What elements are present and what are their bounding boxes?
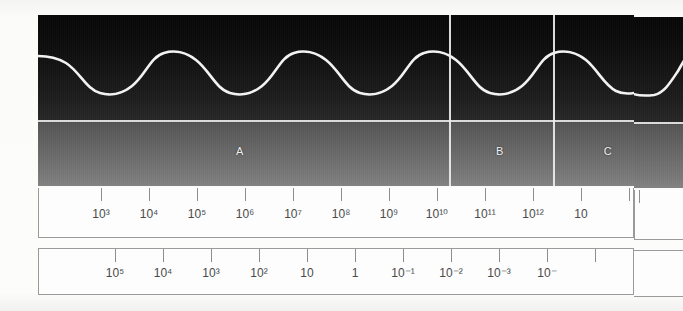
axis-tick-label: 10 [574, 207, 587, 221]
axis-tick [355, 249, 356, 262]
axis-tick-label: 1 [352, 266, 359, 280]
axis-tick [595, 249, 596, 262]
band-label-b: B [496, 145, 504, 157]
axis-tick-label: 10³ [92, 207, 109, 221]
axis-tick-label: 10³ [202, 266, 219, 280]
frequency-scale-axis-right-segment [634, 190, 683, 240]
axis-tick [307, 249, 308, 262]
axis-tick [115, 249, 116, 262]
axis-tick [293, 188, 294, 201]
axis-tick-label: 10⁻ [537, 266, 556, 280]
axis-tick [629, 188, 630, 201]
band-label-c: C [604, 145, 612, 157]
wavelength-scale-axis: 10⁵ 10⁴ 10³ 10² 10 1 10⁻¹ 10⁻² 10⁻³ 10⁻ [38, 248, 634, 295]
spectrum-panel: A B C [38, 15, 634, 186]
axis-tick [581, 188, 582, 201]
axis-tick-label: 10¹⁰ [426, 207, 448, 221]
band-divider-b-c [553, 15, 555, 186]
axis-tick-label: 10⁷ [284, 207, 302, 221]
axis-tick-label: 10⁶ [236, 207, 254, 221]
axis-tick-label: 10¹² [522, 207, 543, 221]
spectrum-panel-right-segment [634, 17, 683, 188]
axis-tick-label: 10¹¹ [474, 207, 495, 221]
axis-tick-label: 10⁴ [140, 207, 159, 221]
axis-tick-label: 10⁻² [439, 266, 462, 280]
waveform-curve-right [634, 17, 683, 188]
frequency-scale-axis: 10³ 10⁴ 10⁵ 10⁶ 10⁷ 10⁸ 10⁹ 10¹⁰ 10¹¹ 10… [38, 188, 634, 238]
wavelength-scale-axis-right-segment [634, 250, 683, 297]
axis-tick [533, 188, 534, 201]
axis-tick-label: 10⁴ [154, 266, 173, 280]
axis-tick [389, 188, 390, 201]
axis-tick [485, 188, 486, 201]
axis-tick [451, 249, 452, 262]
axis-tick [211, 249, 212, 262]
axis-tick [547, 249, 548, 262]
axis-tick [163, 249, 164, 262]
band-divider-a-b [449, 15, 451, 186]
axis-tick [259, 249, 260, 262]
axis-tick [101, 188, 102, 201]
axis-tick-label: 10² [250, 266, 267, 280]
axis-tick [197, 188, 198, 201]
scanned-page: A B C 10³ 10⁴ 10⁵ 10⁶ 10⁷ 10⁸ 10⁹ 10¹⁰ 1… [0, 0, 683, 311]
axis-tick [245, 188, 246, 201]
axis-tick-label: 10 [300, 266, 313, 280]
axis-tick [403, 249, 404, 262]
band-divider-horizontal-right [634, 122, 683, 124]
axis-tick-label: 10⁸ [332, 207, 350, 221]
band-divider-horizontal [38, 120, 634, 122]
axis-tick-label: 10⁹ [380, 207, 399, 221]
axis-tick-label: 10⁵ [188, 207, 206, 221]
axis-tick [437, 188, 438, 201]
axis-tick [149, 188, 150, 201]
axis-tick [499, 249, 500, 262]
axis-tick-label: 10⁻³ [487, 266, 510, 280]
band-label-a: A [236, 145, 244, 157]
axis-tick-label: 10⁵ [106, 266, 124, 280]
waveform-curve [38, 15, 634, 186]
axis-tick [639, 190, 640, 203]
axis-tick-label: 10⁻¹ [391, 266, 414, 280]
axis-tick [341, 188, 342, 201]
